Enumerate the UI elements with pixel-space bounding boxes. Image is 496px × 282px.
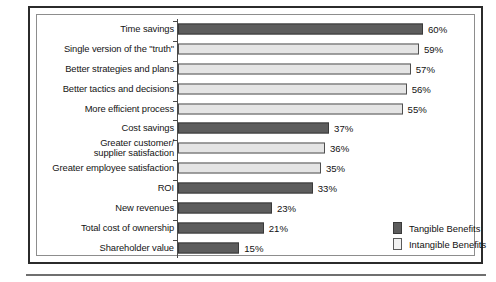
axis-tick [173,81,178,82]
bar-row: Greater employee satisfaction35% [37,158,474,178]
bar-value-label: 56% [412,83,431,94]
bar-intangible [178,103,403,114]
axis-tick [173,180,178,181]
bar-with-value: 59% [178,43,443,54]
category-label: Time savings [120,24,174,34]
category-label: Greater customer/ supplier satisfaction [94,138,174,158]
bar-with-value: 15% [178,242,263,253]
bar-intangible [178,143,325,154]
bar-with-value: 55% [178,103,427,114]
category-label: More efficient process [85,103,174,113]
bar-intangible [178,83,407,94]
bar-value-label: 55% [408,103,427,114]
bar-intangible [178,163,321,174]
legend-label: Tangible Benefits [409,223,480,234]
bar-row: More efficient process55% [37,99,474,119]
bar-tangible [178,183,313,194]
bar-with-value: 60% [178,23,447,34]
legend-swatch-tangible-icon [393,222,402,234]
bar-row: Better strategies and plans57% [37,59,474,79]
category-label: Total cost of ownership [81,223,174,233]
bar-value-label: 36% [330,143,349,154]
bar-row: Time savings60% [37,19,474,39]
category-label: Better tactics and decisions [63,84,174,94]
legend-item-intangible: Intangible Benefits [393,238,486,250]
bar-with-value: 37% [178,123,353,134]
axis-tick [173,120,178,121]
category-label: Single version of the "truth" [64,44,174,54]
bar-value-label: 33% [318,183,337,194]
bar-tangible [178,202,272,213]
plot-inner-frame: Time savings60%Single version of the "tr… [36,14,475,256]
bar-value-label: 15% [244,242,263,253]
bar-value-label: 35% [326,163,345,174]
bar-with-value: 56% [178,83,431,94]
bar-tangible [178,123,329,134]
bar-row: New revenues23% [37,198,474,218]
bar-value-label: 23% [277,202,296,213]
category-label: New revenues [115,203,174,213]
bar-value-label: 37% [334,123,353,134]
bar-tangible [178,23,423,34]
horizontal-bar-chart: Time savings60%Single version of the "tr… [37,15,474,255]
axis-tick [173,240,178,241]
chart-legend: Tangible BenefitsIntangible Benefits [393,222,486,254]
bar-value-label: 59% [424,43,443,54]
category-label: Greater employee satisfaction [52,163,174,173]
bar-row: Single version of the "truth"59% [37,39,474,59]
category-label: Better strategies and plans [65,64,174,74]
bar-with-value: 36% [178,143,349,154]
legend-swatch-intangible-icon [393,238,402,250]
legend-item-tangible: Tangible Benefits [393,222,486,234]
bar-row: Greater customer/ supplier satisfaction3… [37,138,474,158]
bar-with-value: 21% [178,222,288,233]
bar-value-label: 60% [428,23,447,34]
category-label: Shareholder value [100,243,174,253]
footer-divider-rule [26,274,486,276]
bar-tangible [178,242,239,253]
bar-value-label: 57% [416,63,435,74]
bar-with-value: 57% [178,63,435,74]
bar-row: ROI33% [37,178,474,198]
bar-with-value: 23% [178,202,296,213]
bar-with-value: 35% [178,163,345,174]
bar-value-label: 21% [269,222,288,233]
bar-intangible [178,43,419,54]
category-label: Cost savings [122,123,174,133]
bar-row: Better tactics and decisions56% [37,79,474,99]
axis-tick [173,101,178,102]
bar-intangible [178,63,411,74]
bar-with-value: 33% [178,183,337,194]
legend-label: Intangible Benefits [409,239,486,250]
bar-row: Cost savings37% [37,118,474,138]
category-label: ROI [158,183,174,193]
figure-outer-frame: Time savings60%Single version of the "tr… [28,6,483,264]
bar-tangible [178,222,264,233]
